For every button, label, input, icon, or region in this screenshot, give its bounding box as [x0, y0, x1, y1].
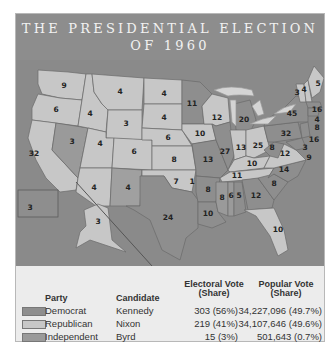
svg-text:25: 25 [253, 141, 263, 150]
svg-text:3: 3 [302, 143, 307, 152]
svg-text:13: 13 [203, 155, 213, 164]
svg-text:10: 10 [273, 225, 283, 234]
svg-text:6: 6 [165, 133, 170, 142]
svg-text:4: 4 [161, 89, 166, 98]
svg-text:8: 8 [219, 193, 224, 202]
svg-text:3: 3 [294, 88, 299, 97]
svg-text:4: 4 [125, 183, 130, 192]
header-popular: Popular Vote (Share) [248, 280, 324, 298]
svg-text:10: 10 [195, 129, 205, 138]
svg-text:11: 11 [232, 171, 242, 180]
title-line-1: THE PRESIDENTIAL ELECTION [16, 20, 324, 37]
svg-text:27: 27 [220, 147, 230, 156]
svg-text:5: 5 [236, 191, 241, 200]
svg-text:8: 8 [171, 155, 176, 164]
table-row-democrat: Democrat Kennedy 303 (56%) 34,227,096 (4… [16, 304, 324, 317]
svg-text:16: 16 [312, 105, 322, 114]
header-electoral: Electoral Vote (Share) [176, 280, 252, 298]
svg-text:9: 9 [61, 81, 66, 90]
state-ak [76, 204, 126, 252]
svg-text:4: 4 [87, 109, 92, 118]
svg-text:11: 11 [187, 99, 197, 108]
header-party: Party [45, 294, 68, 303]
svg-text:6: 6 [131, 147, 136, 156]
svg-text:4: 4 [97, 139, 102, 148]
svg-text:3: 3 [123, 119, 128, 128]
svg-text:8: 8 [271, 179, 276, 188]
svg-text:20: 20 [239, 115, 249, 124]
svg-text:10: 10 [247, 159, 257, 168]
us-map: 9 6 32 3 4 4 3 4 6 4 4 4 4 6 8 7 1 24 11… [16, 60, 324, 266]
svg-text:8: 8 [314, 123, 319, 132]
svg-text:6: 6 [53, 105, 58, 114]
svg-text:4: 4 [301, 85, 306, 94]
header-candidate: Candidate [116, 294, 160, 303]
svg-text:14: 14 [279, 165, 289, 174]
svg-text:12: 12 [212, 113, 222, 122]
svg-text:3: 3 [27, 203, 32, 212]
svg-text:3: 3 [69, 137, 74, 146]
svg-text:4: 4 [91, 183, 96, 192]
swatch-democrat [22, 307, 46, 316]
svg-text:13: 13 [236, 143, 246, 152]
svg-text:32: 32 [281, 129, 291, 138]
svg-text:5: 5 [315, 79, 320, 88]
svg-text:8: 8 [269, 143, 274, 152]
svg-text:10: 10 [203, 209, 213, 218]
svg-text:4: 4 [117, 87, 122, 96]
table-row-republican: Republican Nixon 219 (41%) 34,107,646 (4… [16, 317, 324, 330]
map-title: THE PRESIDENTIAL ELECTION OF 1960 [16, 14, 324, 60]
results-table: Party Candidate Electoral Vote (Share) P… [16, 266, 324, 341]
svg-text:12: 12 [280, 149, 290, 158]
map-svg: 9 6 32 3 4 4 3 4 6 4 4 4 4 6 8 7 1 24 11… [16, 60, 324, 266]
svg-text:32: 32 [29, 149, 39, 158]
hawaii-inset [18, 190, 58, 217]
table-row-independent: Independent Byrd 15 (3%) 501,643 (0.7%) [16, 330, 324, 343]
svg-text:24: 24 [163, 213, 173, 222]
svg-text:1: 1 [189, 177, 194, 186]
swatch-republican [22, 320, 46, 329]
svg-text:9: 9 [306, 153, 311, 162]
svg-text:4: 4 [161, 113, 166, 122]
svg-text:3: 3 [95, 217, 100, 226]
election-map-figure: THE PRESIDENTIAL ELECTION OF 1960 [15, 13, 325, 342]
title-line-2: OF 1960 [16, 37, 324, 54]
svg-text:45: 45 [287, 109, 297, 118]
svg-text:12: 12 [251, 191, 261, 200]
svg-text:8: 8 [205, 185, 210, 194]
svg-text:7: 7 [173, 177, 178, 186]
svg-text:6: 6 [228, 191, 233, 200]
svg-text:16: 16 [309, 135, 319, 144]
swatch-independent [22, 333, 46, 342]
